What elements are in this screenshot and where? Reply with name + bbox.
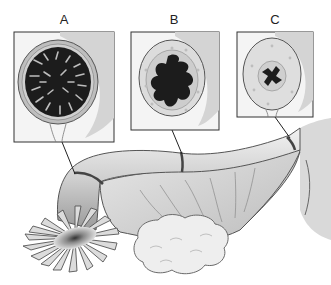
fallopian-tube-diagram bbox=[0, 0, 331, 285]
ovary bbox=[134, 215, 228, 274]
cross-section-panel-b bbox=[131, 32, 219, 130]
cross-section-panel-a bbox=[14, 32, 114, 142]
cross-section-panel-c bbox=[237, 32, 313, 117]
uterus bbox=[300, 118, 331, 240]
lumen-a bbox=[25, 47, 91, 117]
